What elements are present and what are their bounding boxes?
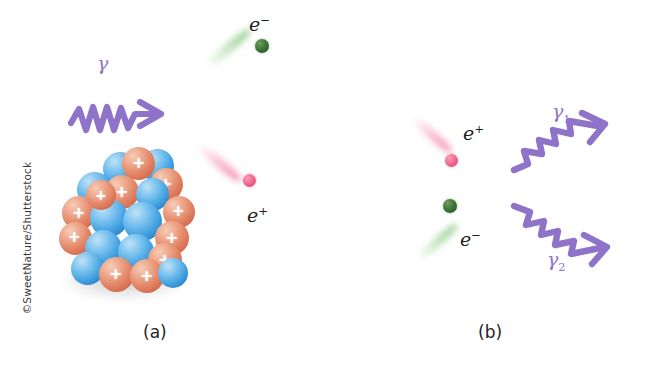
panel-b-caption: (b) [478,322,502,342]
panel-b-positron-label: e+ [463,122,484,144]
image-credit: ©SweetNature/Shutterstock [21,133,33,343]
positron-trail-b [410,114,455,155]
panel-a-electron-label: e− [249,13,270,35]
neutron [158,258,188,288]
panel-b-photon2-label: γ2 [547,248,566,274]
outgoing-photon1-arrow-icon [506,108,646,178]
panel-a-positron-label: e+ [247,204,268,226]
panel-a-caption: (a) [143,322,167,342]
positron-trail-a [195,141,244,185]
electron-trail-a [203,26,254,71]
positron-particle-b [445,154,458,167]
positron-particle-a [243,174,256,187]
outgoing-photon2-arrow-icon [506,192,646,272]
panel-a-photon-label: γ [97,52,108,74]
electron-trail-b [414,221,460,264]
electron-particle-a [255,39,269,53]
incoming-photon-arrow-icon [68,92,168,142]
electron-particle-b [443,199,457,213]
physics-figure: ©SweetNature/Shutterstock γ e− e+ + + [0,0,656,378]
panel-b-electron-label: e− [460,228,481,250]
proton [99,257,134,292]
proton [86,180,116,210]
